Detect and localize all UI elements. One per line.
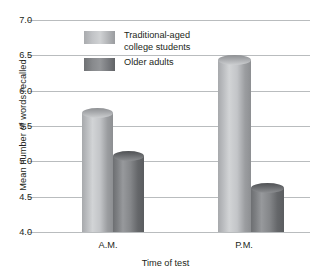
y-tick-label-7-0: 7.0 [19,15,32,25]
gridline-6-0 [38,91,310,92]
y-tick-label-6-5: 6.5 [19,50,32,60]
bar-body [113,156,144,232]
y-tick-label-6-0: 6.0 [19,86,32,96]
legend-swatch-icon-light [84,31,115,44]
gridline-4-0-baseline [38,232,310,233]
bar-body [251,188,284,232]
y-tick-label-5-0: 5.0 [19,156,32,166]
gridline-5-5 [38,126,310,127]
bar-chart: Mean number of words recalled 7.0 6.5 6.… [0,0,331,275]
legend-label: Older adults [124,57,174,69]
y-tick-label-4-5: 4.5 [19,192,32,202]
bar-cap [113,151,144,161]
bar-am-traditional-aged-college-students [82,108,113,232]
legend-label: Traditional-aged college students [124,30,190,53]
legend: Traditional-aged college students Older … [84,30,190,75]
x-tick-label-am: A.M. [83,240,133,250]
x-tick-label-pm: P.M. [219,240,269,250]
legend-swatch-icon-dark [84,58,115,71]
bar-cap [251,183,284,193]
legend-item-older-adults: Older adults [84,57,190,71]
bar-body [218,60,251,232]
gridline-5-0 [38,161,310,162]
bar-am-older-adults [113,151,144,232]
bar-pm-older-adults [251,183,284,232]
legend-item-traditional-aged-college-students: Traditional-aged college students [84,30,190,53]
gridline-7-0 [38,20,310,21]
y-tick-label-4-0: 4.0 [19,227,32,237]
x-axis-title: Time of test [0,258,331,268]
bar-pm-traditional-aged-college-students [218,55,251,232]
bar-body [82,113,113,232]
y-tick-label-5-5: 5.5 [19,121,32,131]
